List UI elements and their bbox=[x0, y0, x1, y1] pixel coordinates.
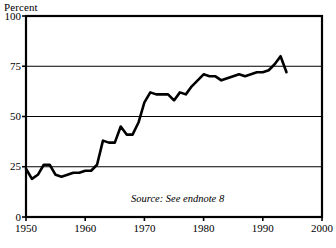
y-tick-label-100: 100 bbox=[0, 11, 21, 22]
chart-figure: Percent 0255075100 195019601970198019902… bbox=[0, 0, 336, 248]
x-tick-label-2000: 2000 bbox=[305, 223, 336, 234]
chart-plot-area bbox=[0, 0, 336, 248]
y-tick-label-25: 25 bbox=[0, 161, 21, 172]
y-tick-label-50: 50 bbox=[0, 111, 21, 122]
x-tick-label-1980: 1980 bbox=[187, 223, 221, 234]
y-tick-label-75: 75 bbox=[0, 61, 21, 72]
x-tick-label-1970: 1970 bbox=[127, 223, 161, 234]
x-tick-label-1960: 1960 bbox=[68, 223, 102, 234]
y-tick-label-0: 0 bbox=[0, 212, 21, 223]
source-annotation: Source: See endnote 8 bbox=[131, 193, 224, 204]
x-tick-label-1950: 1950 bbox=[9, 223, 43, 234]
x-tick-label-1990: 1990 bbox=[246, 223, 280, 234]
